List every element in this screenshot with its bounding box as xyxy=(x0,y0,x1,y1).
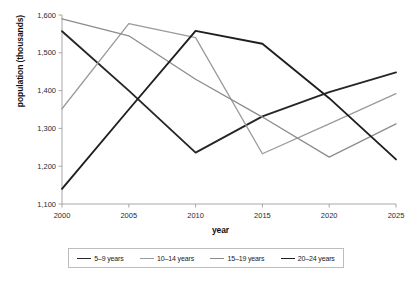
legend-item-4[interactable]: 20–24 years xyxy=(281,255,335,262)
legend-item-label: 10–14 years xyxy=(157,255,194,262)
legend-item-3[interactable]: 15–19 years xyxy=(210,255,264,262)
svg-text:1,400: 1,400 xyxy=(37,86,56,95)
chart-series-lines xyxy=(62,19,396,189)
y-axis-title: population (thousands) xyxy=(15,15,25,107)
y-axis-title-wrap: population (thousands) xyxy=(9,1,27,121)
x-axis-title-wrap: year xyxy=(0,219,411,237)
legend-item-label: 5–9 years xyxy=(94,255,123,262)
legend-swatch-line-icon xyxy=(77,258,91,259)
svg-text:1,300: 1,300 xyxy=(37,124,56,133)
line-chart-plot: 1,1001,2001,3001,4001,5001,6002000200520… xyxy=(0,0,411,281)
legend-swatch-line-icon xyxy=(281,258,295,259)
svg-text:1,600: 1,600 xyxy=(37,11,56,20)
x-axis-title: year xyxy=(212,225,229,235)
chart-axes xyxy=(59,15,397,208)
legend-item-label: 20–24 years xyxy=(298,255,335,262)
chart-legend: 5–9 years10–14 years15–19 years20–24 yea… xyxy=(68,248,344,268)
chart-container: 1,1001,2001,3001,4001,5001,6002000200520… xyxy=(0,0,411,281)
legend-swatch-line-icon xyxy=(210,258,224,259)
legend-swatch-line-icon xyxy=(140,258,154,259)
svg-text:1,200: 1,200 xyxy=(37,162,56,171)
legend-item-label: 15–19 years xyxy=(227,255,264,262)
legend-item-2[interactable]: 10–14 years xyxy=(140,255,194,262)
svg-text:1,100: 1,100 xyxy=(37,200,56,209)
legend-item-1[interactable]: 5–9 years xyxy=(77,255,123,262)
svg-text:1,500: 1,500 xyxy=(37,48,56,57)
